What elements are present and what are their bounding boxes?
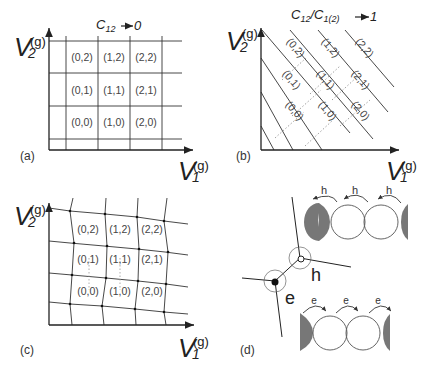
- panel-d-label: (d): [240, 343, 255, 357]
- x-axis-label: V (g) 1: [178, 156, 209, 186]
- svg-text:(2,0): (2,0): [135, 116, 157, 128]
- svg-text:(2,0): (2,0): [141, 285, 163, 297]
- hole-label: h: [311, 265, 321, 285]
- triple-point-lines: [242, 197, 351, 337]
- svg-text:e: e: [311, 295, 317, 306]
- electron-label: e: [285, 288, 295, 308]
- svg-text:1: 1: [192, 346, 200, 362]
- svg-text:(2,0): (2,0): [350, 98, 373, 122]
- svg-text:e: e: [375, 295, 381, 306]
- svg-text:(0,1): (0,1): [71, 84, 93, 96]
- svg-text:(0,2): (0,2): [285, 35, 308, 59]
- svg-text:2: 2: [27, 45, 36, 61]
- figure-canvas: C12 0 (0,2) (1,2) (2,2) (0,1) (1,1) (2,1…: [0, 0, 421, 368]
- panel-a-cells: (0,2) (1,2) (2,2) (0,1) (1,1) (2,1) (0,0…: [71, 51, 157, 128]
- svg-text:(0,0): (0,0): [77, 285, 99, 297]
- svg-text:e: e: [343, 295, 349, 306]
- left-lead-icon: [304, 203, 319, 241]
- panel-a-label: (a): [20, 149, 35, 163]
- svg-text:(0,0): (0,0): [284, 98, 307, 122]
- svg-text:(1,1): (1,1): [109, 253, 131, 265]
- electron-point-icon: [272, 279, 279, 286]
- hole-transport-diagram: h h h: [304, 184, 408, 241]
- svg-text:(1,2): (1,2): [320, 35, 343, 59]
- svg-text:1: 1: [400, 169, 408, 185]
- svg-text:(0,0): (0,0): [71, 116, 93, 128]
- svg-text:h: h: [321, 184, 327, 196]
- svg-text:(2,2): (2,2): [354, 35, 377, 59]
- svg-text:(1,1): (1,1): [315, 67, 338, 91]
- panel-d: h e h h h: [240, 184, 408, 357]
- svg-text:2: 2: [239, 39, 248, 55]
- left-lead-icon: [300, 313, 313, 351]
- svg-text:h: h: [386, 184, 392, 196]
- panel-b: C12/C1(2) 1 (0,2): [226, 7, 417, 186]
- svg-text:(0,2): (0,2): [71, 51, 93, 63]
- svg-text:(2,1): (2,1): [141, 253, 163, 265]
- svg-text:(0,1): (0,1): [77, 253, 99, 265]
- panel-b-cells: (0,2) (1,2) (2,2) (0,1) (1,1) (2,1) (0,0…: [281, 35, 377, 122]
- svg-text:(1,0): (1,0): [103, 116, 125, 128]
- svg-text:(0,1): (0,1): [281, 67, 304, 91]
- svg-text:(1,0): (1,0): [317, 98, 340, 122]
- svg-text:(1,1): (1,1): [103, 84, 125, 96]
- x-axis-label: V (g) 1: [386, 156, 417, 186]
- panel-b-label: (b): [236, 149, 251, 163]
- panel-c-label: (c): [20, 343, 34, 357]
- electron-transport-diagram: e e e: [300, 295, 391, 351]
- svg-text:(2,2): (2,2): [141, 223, 163, 235]
- svg-text:(2,1): (2,1): [350, 67, 373, 91]
- y-axis-label: V (g) 2: [14, 32, 46, 62]
- panel-a: C12 0 (0,2) (1,2) (2,2) (0,1) (1,1) (2,1…: [14, 17, 209, 186]
- svg-text:2: 2: [27, 214, 36, 230]
- x-axis-label: V (g) 1: [178, 333, 209, 363]
- right-lead-icon: [383, 314, 390, 351]
- hole-point-icon: [298, 256, 304, 262]
- panel-b-title: C12/C1(2): [291, 7, 339, 24]
- panel-a-title-value: 0: [134, 18, 142, 33]
- panel-c: (0,2) (1,2) (2,2) (0,1) (1,1) (2,1) (0,0…: [14, 198, 209, 363]
- svg-text:(2,2): (2,2): [135, 51, 157, 63]
- right-lead-icon: [401, 204, 408, 240]
- svg-text:1: 1: [192, 169, 200, 185]
- y-axis-label: V (g) 2: [14, 201, 46, 231]
- svg-text:(1,0): (1,0): [109, 285, 131, 297]
- panel-a-title: C12: [96, 17, 115, 34]
- svg-text:h: h: [352, 184, 358, 196]
- y-axis-label: V (g) 2: [226, 26, 258, 56]
- panel-c-cells: (0,2) (1,2) (2,2) (0,1) (1,1) (2,1) (0,0…: [77, 223, 163, 297]
- svg-text:(1,2): (1,2): [109, 223, 131, 235]
- panel-b-title-value: 1: [370, 9, 377, 24]
- svg-text:(2,1): (2,1): [135, 84, 157, 96]
- svg-text:(0,2): (0,2): [77, 223, 99, 235]
- svg-text:(1,2): (1,2): [103, 51, 125, 63]
